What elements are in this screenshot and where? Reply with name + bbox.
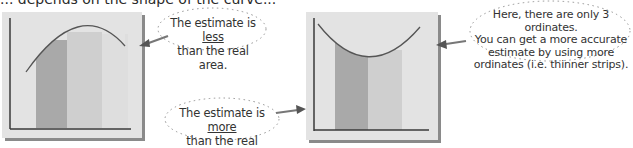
left-graph (2, 12, 145, 141)
right-strip-mid (368, 50, 402, 130)
note-ordinates-line1: Here, there are only 3 ordinates. (470, 9, 632, 34)
note-less-prefix: The estimate is (170, 16, 256, 30)
left-strip-light (102, 34, 128, 128)
arrow-more-icon (276, 105, 306, 114)
note-ordinates: Here, there are only 3 ordinates. You ca… (470, 9, 632, 72)
note-less-emphasis: less (202, 30, 223, 44)
note-more-emphasis: more (208, 120, 237, 134)
left-strip-mid (67, 32, 102, 128)
note-more: The estimate is more than the real area. (172, 106, 272, 148)
note-less: The estimate is less than the real area. (166, 16, 260, 72)
note-less-line2: than the real area. (166, 44, 260, 72)
note-more-prefix: The estimate is (179, 106, 265, 120)
right-graph (306, 12, 441, 143)
note-ordinates-line4: ordinates (i.e. thinner strips). (470, 59, 632, 72)
note-ordinates-line2: You can get a more accurate (470, 34, 632, 47)
note-more-line2: than the real area. (172, 134, 272, 148)
